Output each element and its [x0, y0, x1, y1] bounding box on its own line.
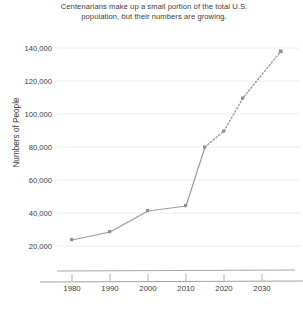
data-point-markers: [70, 50, 283, 242]
gridlines: [57, 48, 299, 246]
axis-lines: [40, 270, 303, 282]
series-actual-line: [72, 147, 205, 240]
chart-container: Centenarians make up a small portion of …: [0, 0, 303, 309]
x-axis-ticks: [72, 274, 262, 281]
plot-area: [0, 0, 303, 309]
